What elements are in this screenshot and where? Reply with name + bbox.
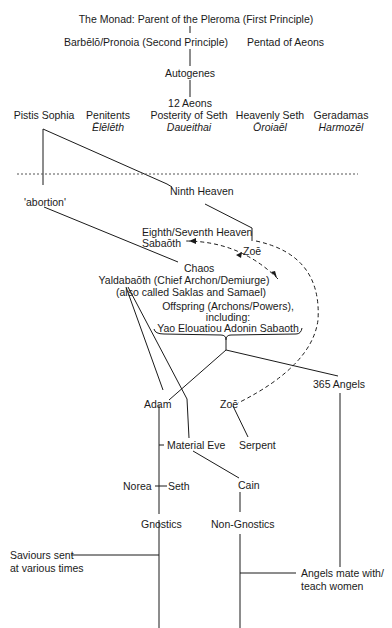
barbelo-node: Barbēlō/Pronoia (Second Principle) [64,36,228,48]
aeon-pistis-sophia: Pistis Sophia [14,109,75,121]
angels-mate-line-1: Angels mate with/ [301,567,384,579]
autogenes-node: Autogenes [165,67,215,79]
norea-node: Norea [123,480,152,492]
aeon-geradamas: Geradamas Harmozēl [314,109,369,133]
monad-node: The Monad: Parent of the Pleroma (First … [79,13,314,25]
ninth-heaven-node: Ninth Heaven [170,185,234,197]
abortion-node: 'abortion' [24,196,66,208]
also-called-note: (also called Saklas and Samael) [116,286,266,298]
saviours-line-2: at various times [10,562,84,574]
gnostic-cosmology-diagram: The Monad: Parent of the Pleroma (First … [0,0,392,628]
connector-lines [0,0,392,628]
saviours-line-1: Saviours sent [10,549,74,561]
material-eve-node: Material Eve [167,439,225,451]
zoe-upper-node: Zoē [243,245,261,257]
cain-node: Cain [238,479,260,491]
non-gnostics-node: Non-Gnostics [211,518,275,530]
yaldabaoth-node: Yaldabaōth (Chief Archon/Demiurge) [99,274,270,286]
angels-365-node: 365 Angels [313,378,365,390]
aeon-posterity-of-seth: Posterity of Seth Daueithai [150,109,227,133]
aeon-penitents: Penitents Ēlēlēth [86,109,130,133]
chaos-node: Chaos [184,262,214,274]
serpent-node: Serpent [239,439,276,451]
zoe-lower-node: Zoē [220,398,238,410]
pentad-node: Pentad of Aeons [247,36,324,48]
seth-node: Seth [168,480,190,492]
sabaoth-node: Sabaōth [142,237,181,249]
offspring-line-3: Yao Elouatiou Adonin Sabaoth [157,322,299,334]
gnostics-node: Gnostics [141,518,182,530]
aeon-heavenly-seth: Heavenly Seth Ōroiaēl [236,109,304,133]
twelve-aeons-node: 12 Aeons [168,97,212,109]
angels-mate-line-2: teach women [301,580,363,592]
adam-node: Adam [144,398,171,410]
